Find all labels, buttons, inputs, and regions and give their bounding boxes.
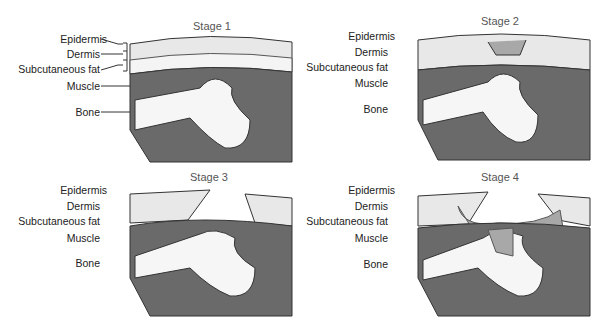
stage-1-panel: Stage 1 Epidermis Dermis Subcutaneous fa… (0, 0, 297, 168)
stage-2-illustration (298, 0, 595, 168)
stage-4-illustration (298, 168, 595, 336)
stage-4-panel: Stage 4 Epidermis Dermis Subcutaneous fa… (298, 168, 595, 336)
stage-2-panel: Stage 2 Epidermis Dermis Subcutaneous fa… (298, 0, 595, 168)
stage-3-illustration (0, 168, 297, 336)
stage-3-panel: Stage 3 Epidermis Dermis Subcutaneous fa… (0, 168, 297, 336)
stage-1-illustration (0, 0, 297, 168)
